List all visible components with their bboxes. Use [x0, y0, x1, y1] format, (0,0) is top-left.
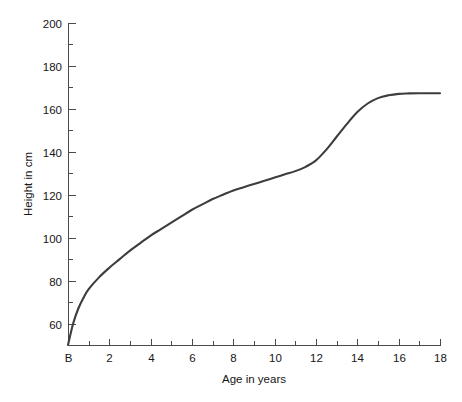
x-tick-label: B	[65, 352, 73, 364]
y-tick-label: 100	[43, 233, 62, 245]
x-tick-label: 6	[189, 352, 195, 364]
x-tick-label: 8	[230, 352, 236, 364]
y-tick-label: 200	[43, 18, 62, 30]
y-tick-label: 140	[43, 147, 62, 159]
y-axis-title: Height in cm	[22, 152, 34, 216]
x-tick-label: 14	[351, 352, 364, 364]
y-tick-label: 160	[43, 104, 62, 116]
y-tick-label: 60	[49, 319, 62, 331]
x-tick-label: 4	[148, 352, 155, 364]
chart-canvas: 6080100120140160180200 B24681012141618 A…	[0, 0, 462, 402]
y-tick-label: 80	[49, 276, 62, 288]
growth-chart-figure: 6080100120140160180200 B24681012141618 A…	[0, 0, 462, 402]
x-tick-label: 10	[269, 352, 282, 364]
y-tick-label: 180	[43, 61, 62, 73]
x-tick-label: 12	[310, 352, 323, 364]
x-tick-label: 16	[393, 352, 406, 364]
y-tick-label: 120	[43, 190, 62, 202]
x-tick-label: 18	[434, 352, 447, 364]
x-axis-title: Age in years	[222, 373, 286, 385]
x-tick-label: 2	[106, 352, 112, 364]
